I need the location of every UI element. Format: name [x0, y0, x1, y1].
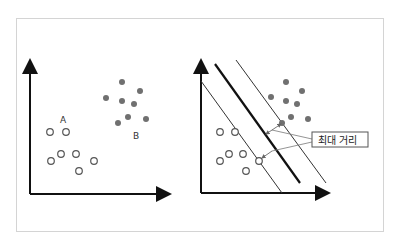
- margin-arrow-upper-head: [266, 130, 272, 134]
- class-b-point: [143, 116, 149, 122]
- class-b-point: [268, 94, 274, 100]
- class-a-point: [76, 168, 83, 175]
- class-b-point: [119, 79, 125, 85]
- class-a-point: [91, 158, 98, 165]
- class-b-points: [268, 79, 311, 126]
- callout-label: 최대 거리: [318, 135, 357, 146]
- class-a-label: A: [60, 115, 67, 125]
- class-a-point: [217, 158, 224, 165]
- class-b-point: [299, 88, 305, 94]
- class-a-point: [217, 129, 224, 136]
- class-a-point: [47, 129, 54, 136]
- class-a-point: [243, 168, 250, 175]
- class-a-point: [63, 129, 70, 136]
- margin-arrow-lower: [272, 142, 312, 151]
- class-b-point: [288, 114, 294, 120]
- class-b-points: [103, 79, 149, 126]
- class-b-point: [115, 120, 121, 126]
- class-b-label: B: [133, 131, 139, 141]
- class-a-point: [232, 129, 239, 136]
- class-a-point: [48, 158, 55, 165]
- class-a-point: [240, 151, 247, 158]
- class-b-point: [294, 101, 300, 107]
- class-a-point: [256, 158, 263, 165]
- class-b-point: [125, 114, 131, 120]
- right-panel: 최대 거리: [201, 60, 368, 193]
- class-b-point: [137, 88, 143, 94]
- class-a-points: [217, 129, 263, 175]
- margin-arrow-upper: [272, 130, 312, 139]
- class-b-point: [103, 95, 109, 101]
- svm-diagram: A B 최대 거리: [0, 0, 399, 251]
- class-a-point: [226, 151, 233, 158]
- class-b-point: [305, 116, 311, 122]
- left-panel: A B: [30, 66, 164, 194]
- margin-arrow-upper-head2: [272, 124, 281, 130]
- class-a-points: [47, 129, 98, 175]
- class-b-point: [119, 98, 125, 104]
- class-a-point: [73, 151, 80, 158]
- class-b-point: [283, 98, 289, 104]
- margin-arrow-lower-head: [262, 151, 272, 158]
- class-a-point: [58, 151, 65, 158]
- class-b-point: [283, 79, 289, 85]
- class-b-point: [131, 101, 137, 107]
